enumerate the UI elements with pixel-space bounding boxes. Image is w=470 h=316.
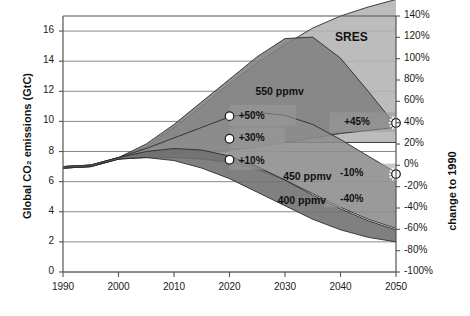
plot-svg	[0, 0, 470, 316]
marker-2020-plus30	[225, 134, 234, 143]
marker-2020-plus10	[225, 156, 234, 165]
x-tick-label: 2010	[149, 281, 199, 292]
x-tick-label: 2050	[371, 281, 421, 292]
annotation-40: -40%	[340, 193, 363, 204]
y-tick-label-left: 6	[14, 175, 54, 186]
y-tick-label-right: -20%	[404, 180, 450, 191]
y-tick-label-left: 12	[14, 84, 54, 95]
y-tick-label-right: 140%	[404, 9, 450, 20]
y-tick-label-right: -40%	[404, 201, 450, 212]
annotation-50: +50%	[239, 110, 265, 121]
marker-2020-plus50	[225, 112, 234, 121]
x-tick-label: 2040	[316, 281, 366, 292]
annotation-450-ppmv: 450 ppmv	[283, 170, 331, 182]
y-tick-label-left: 14	[14, 54, 54, 65]
x-tick-label: 2020	[205, 281, 255, 292]
marker-dot	[225, 156, 234, 165]
annotation-10: +10%	[239, 155, 265, 166]
x-tick-label: 1990	[38, 281, 88, 292]
marker-dot	[225, 112, 234, 121]
annotation-10: -10%	[340, 167, 363, 178]
y-tick-label-right: 120%	[404, 30, 450, 41]
chart-container: Global CO₂ emissions (GtC) change to 199…	[0, 0, 470, 316]
annotation-sres: SRES	[335, 30, 368, 44]
y-tick-label-right: -80%	[404, 244, 450, 255]
y-tick-label-right: 0%	[404, 158, 450, 169]
y-tick-label-left: 10	[14, 114, 54, 125]
annotation-30: +30%	[239, 132, 265, 143]
x-tick-label: 2000	[94, 281, 144, 292]
y-tick-label-left: 0	[14, 265, 54, 276]
y-tick-label-right: -100%	[404, 265, 450, 276]
y-tick-label-right: 60%	[404, 94, 450, 105]
y-tick-label-left: 2	[14, 235, 54, 246]
y-tick-label-right: 80%	[404, 73, 450, 84]
y-tick-label-right: -60%	[404, 222, 450, 233]
y-tick-label-left: 4	[14, 205, 54, 216]
marker-dot	[225, 134, 234, 143]
y-tick-label-left: 8	[14, 145, 54, 156]
y-tick-label-left: 16	[14, 24, 54, 35]
x-tick-label: 2030	[260, 281, 310, 292]
y-tick-label-right: 40%	[404, 116, 450, 127]
y-tick-label-right: 20%	[404, 137, 450, 148]
y-tick-label-right: 100%	[404, 52, 450, 63]
annotation-550-ppmv: 550 ppmv	[255, 85, 303, 97]
annotation-45: +45%	[344, 116, 370, 127]
annotation-400-ppmv: 400 ppmv	[278, 194, 326, 206]
